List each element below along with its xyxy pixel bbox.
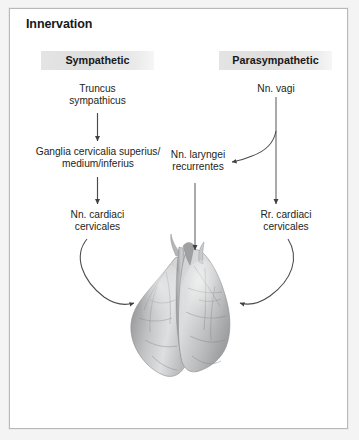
innervation-diagram-page: Innervation Sympathetic Parasympathetic …	[0, 0, 359, 440]
lungs-illustration	[0, 0, 359, 440]
